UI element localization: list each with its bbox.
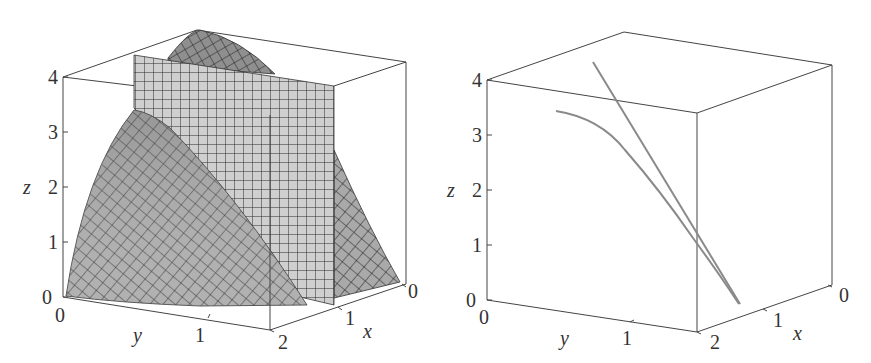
right-x-tick-0: 0 [839,284,849,306]
right-tangent-line [593,62,740,304]
left-x-tick-0: 0 [408,280,418,302]
left-z-tick-3: 3 [48,121,58,143]
right-curve [556,111,739,304]
right-x-tick-2: 2 [710,331,720,353]
right-z-tick-3: 3 [472,124,482,146]
left-y-label: y [131,324,142,347]
left-chart: 4 3 2 1 0 z 0 1 y 0 1 2 x [22,30,418,353]
right-y-label: y [558,327,569,350]
left-z-label: z [22,176,31,198]
left-x-tick-2: 2 [278,331,288,353]
right-chart: 4 3 2 1 0 z 0 1 y 0 1 2 x [446,32,849,353]
left-z-tick-4: 4 [48,66,58,88]
right-box [487,32,832,334]
right-z-label: z [446,179,455,201]
left-x-label: x [362,320,372,342]
left-x-tick-1: 1 [345,307,355,329]
left-z-tick-1: 1 [48,231,58,253]
left-y-tick-1: 1 [195,324,205,346]
figure: 4 3 2 1 0 z 0 1 y 0 1 2 x [0,0,871,363]
left-z-tick-2: 2 [48,176,58,198]
left-z-tick-0: 0 [42,286,52,308]
right-y-tick-0: 0 [479,306,489,328]
left-y-tick-0: 0 [55,304,65,326]
right-z-tick-2: 2 [472,179,482,201]
right-x-label: x [792,322,802,344]
right-z-tick-1: 1 [472,234,482,256]
right-y-tick-1: 1 [622,327,632,349]
right-z-tick-4: 4 [472,69,482,91]
left-surface-right [334,150,400,298]
right-z-tick-0: 0 [466,289,476,311]
right-x-tick-1: 1 [773,309,783,331]
